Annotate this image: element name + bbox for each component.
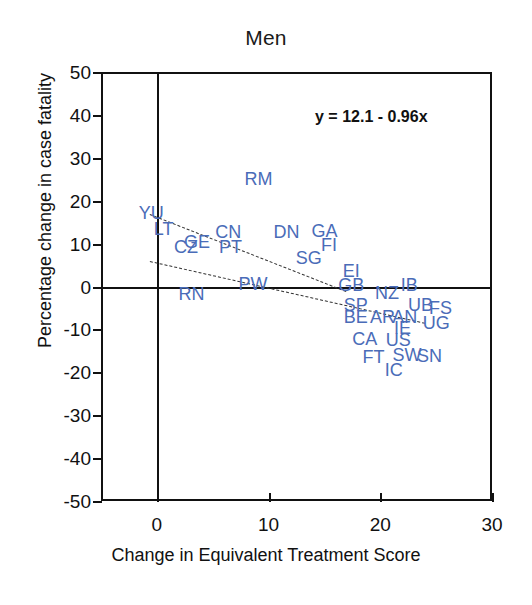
y-tick-mark (93, 244, 102, 246)
x-tick-label: 10 (239, 515, 299, 534)
y-tick-mark (93, 158, 102, 160)
y-tick-mark (93, 372, 102, 374)
y-tick-mark (93, 72, 102, 74)
y-tick-label: 50 (43, 63, 91, 82)
y-tick-mark (93, 201, 102, 203)
chart-page: Men RMYULTCZGECNPTDNGAFISGEIGBRNPWNZIBSP… (0, 0, 532, 605)
data-point-label: IC (385, 361, 403, 379)
data-point-label: RN (178, 285, 204, 303)
y-tick-label: -10 (43, 320, 91, 339)
y-tick-mark (93, 415, 102, 417)
y-tick-label: 0 (43, 278, 91, 297)
x-axis-label: Change in Equivalent Treatment Score (0, 545, 532, 566)
data-point-label: IB (401, 276, 418, 294)
data-point-label: PT (219, 238, 242, 256)
data-point-label: BE (344, 308, 368, 326)
data-point-label: NZ (375, 284, 399, 302)
y-tick-mark (93, 458, 102, 460)
y-tick-mark (93, 329, 102, 331)
y-tick-label: -30 (43, 406, 91, 425)
chart-title: Men (0, 26, 532, 50)
data-point-label: GE (184, 233, 210, 251)
y-tick-label: 30 (43, 149, 91, 168)
data-point-label: DN (273, 223, 299, 241)
x-tick-label: 20 (350, 515, 410, 534)
plot-area: RMYULTCZGECNPTDNGAFISGEIGBRNPWNZIBSPUBFS… (101, 72, 492, 501)
y-tick-label: 10 (43, 235, 91, 254)
data-point-label: SN (417, 347, 442, 365)
data-point-label: FT (363, 348, 385, 366)
x-tick-mark (492, 493, 494, 502)
data-point-label: CA (352, 330, 377, 348)
data-point-label: GB (338, 276, 364, 294)
y-tick-mark (93, 501, 102, 503)
data-point-label: UG (423, 314, 450, 332)
y-tick-mark (93, 115, 102, 117)
data-point-label: RM (245, 170, 273, 188)
x-tick-mark (380, 493, 382, 502)
x-tick-label: 30 (462, 515, 522, 534)
y-zero-axis-line (101, 287, 492, 289)
y-tick-label: -50 (43, 492, 91, 511)
y-tick-label: 40 (43, 106, 91, 125)
y-tick-mark (93, 287, 102, 289)
x-tick-label: 0 (127, 515, 187, 534)
data-point-label: AR (370, 308, 395, 326)
data-point-label: FI (321, 236, 337, 254)
data-point-label: SG (296, 249, 322, 267)
data-point-label: PW (238, 275, 267, 293)
data-point-label: LT (154, 220, 174, 238)
regression-equation-annotation: y = 12.1 - 0.96x (315, 108, 428, 126)
y-tick-label: -20 (43, 363, 91, 382)
x-tick-mark (269, 493, 271, 502)
y-tick-label: -40 (43, 449, 91, 468)
y-tick-label: 20 (43, 192, 91, 211)
x-tick-mark (157, 493, 159, 502)
